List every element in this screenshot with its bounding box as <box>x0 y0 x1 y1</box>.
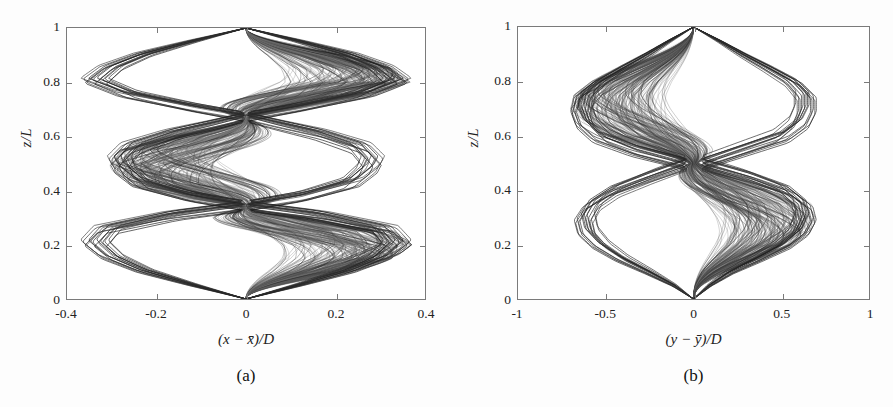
tick-mark <box>695 27 696 32</box>
panel-a-y-tick-label: 0.8 <box>22 74 60 90</box>
panel-b-x-tick-label: -1 <box>511 306 522 322</box>
tick-mark <box>420 83 425 84</box>
tick-mark <box>247 28 248 33</box>
tick-mark <box>420 246 425 247</box>
tick-mark <box>67 192 72 193</box>
panel-b-y-tick-label: 1 <box>473 18 511 34</box>
panel-b-y-tick-label: 0.8 <box>473 73 511 89</box>
panel-b-x-axis-label: (y − ȳ)/D <box>517 331 870 348</box>
tick-mark <box>157 28 158 33</box>
tick-mark <box>864 191 869 192</box>
tick-mark <box>783 27 784 32</box>
panel-b-x-tick-label: -0.5 <box>595 306 616 322</box>
panel-a-y-tick-label: 1 <box>22 19 60 35</box>
panel-a: z/L 00.20.40.60.81 -0.4-0.200.20.4 (x − … <box>0 0 448 407</box>
panel-a-y-tick-label: 0.2 <box>22 237 60 253</box>
panel-b-caption: (b) <box>517 366 870 386</box>
panel-b-y-tick-label: 0 <box>473 292 511 308</box>
panel-b: z/L 00.20.40.60.81 -1-0.500.51 (y − ȳ)/… <box>445 0 893 407</box>
panel-a-y-tick-label: 0 <box>22 292 60 308</box>
panel-a-trace-bundle <box>67 28 425 299</box>
panel-a-x-tick-label: -0.4 <box>55 306 76 322</box>
tick-mark <box>864 137 869 138</box>
tick-mark <box>864 82 869 83</box>
tick-mark <box>518 82 523 83</box>
panel-a-x-tick-label: 0.4 <box>418 306 435 322</box>
panel-a-plot-area <box>66 27 426 300</box>
tick-mark <box>518 191 523 192</box>
tick-mark <box>67 137 72 138</box>
panel-b-plot-area <box>517 26 870 300</box>
panel-a-x-axis-label: (x − x̄)/D <box>66 331 426 348</box>
panel-a-x-tick-label: -0.2 <box>145 306 166 322</box>
panel-b-y-tick-label: 0.4 <box>473 182 511 198</box>
panel-a-y-tick-label: 0.4 <box>22 183 60 199</box>
panel-a-x-tick-label: 0 <box>243 306 250 322</box>
tick-mark <box>518 137 523 138</box>
tick-mark <box>606 294 607 299</box>
tick-mark <box>337 294 338 299</box>
panel-b-y-tick-label: 0.6 <box>473 128 511 144</box>
panel-b-x-tick-label: 1 <box>867 306 874 322</box>
tick-mark <box>420 137 425 138</box>
panel-a-y-tick-label: 0.6 <box>22 128 60 144</box>
panel-b-x-tick-label: 0 <box>690 306 697 322</box>
tick-mark <box>337 28 338 33</box>
panel-b-trace-bundle <box>518 27 869 299</box>
figure-container: z/L 00.20.40.60.81 -0.4-0.200.20.4 (x − … <box>0 0 893 407</box>
tick-mark <box>420 192 425 193</box>
tick-mark <box>518 246 523 247</box>
tick-mark <box>67 83 72 84</box>
tick-mark <box>783 294 784 299</box>
panel-a-caption: (a) <box>66 366 426 386</box>
panel-b-y-tick-label: 0.2 <box>473 237 511 253</box>
panel-b-x-tick-label: 0.5 <box>773 306 790 322</box>
tick-mark <box>606 27 607 32</box>
tick-mark <box>864 246 869 247</box>
tick-mark <box>157 294 158 299</box>
panel-a-x-tick-label: 0.2 <box>328 306 345 322</box>
tick-mark <box>247 294 248 299</box>
tick-mark <box>67 246 72 247</box>
tick-mark <box>695 294 696 299</box>
